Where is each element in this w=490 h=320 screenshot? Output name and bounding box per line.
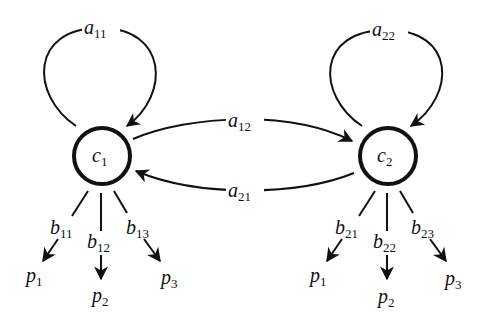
network-diagram: a11 a22 a12 a21 c1 c2 [0, 0, 490, 320]
weight-label-b21: b21 [335, 216, 358, 241]
node-c1: c1 [74, 128, 130, 184]
weight-label-b11: b11 [50, 216, 73, 241]
edge-a12: a12 [133, 109, 352, 141]
target-label-p1: p1 [308, 264, 327, 289]
edge-a11: a11 [44, 14, 156, 126]
weight-label-b23: b23 [411, 216, 434, 241]
target-label-p3: p3 [159, 266, 178, 291]
output-edge-b22: b22 p2 [373, 193, 396, 310]
weight-label-b22: b22 [373, 230, 396, 255]
weight-label-b13: b13 [126, 216, 149, 241]
output-edge-b13: b13 p3 [114, 191, 178, 291]
target-label-p2: p2 [90, 284, 109, 309]
output-edge-b21: b21 p1 [308, 191, 375, 289]
node-c2: c2 [360, 128, 416, 184]
weight-label-b12: b12 [87, 230, 110, 255]
output-edge-b11: b11 p1 [24, 191, 88, 289]
output-edge-b23: b23 p3 [400, 191, 462, 292]
target-label-p3: p3 [443, 267, 462, 292]
target-label-p2: p2 [376, 285, 395, 310]
edge-a22: a22 [330, 16, 442, 126]
outputs-c2: b21 p1 b22 p2 b23 p3 [308, 191, 462, 310]
output-edge-b12: b12 p2 [87, 193, 110, 309]
edge-a21: a21 [136, 171, 354, 204]
target-label-p1: p1 [24, 264, 43, 289]
outputs-c1: b11 p1 b12 p2 b13 p3 [24, 191, 178, 309]
